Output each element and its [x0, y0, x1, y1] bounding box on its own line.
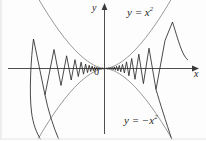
oscillating-curve-left-tail	[30, 39, 41, 140]
lower-parabola-label: y = −x2	[124, 113, 158, 126]
left-edge-shading	[0, 0, 3, 140]
bottom-edge-shading	[0, 137, 206, 140]
origin-label: 0	[94, 66, 99, 77]
squeeze-theorem-figure: y = x2 y = −x2 y x 0	[0, 0, 206, 140]
oscillating-curve-left-return	[45, 95, 59, 140]
graph-canvas	[0, 0, 206, 140]
oscillating-curve-right	[106, 22, 173, 90]
x-axis-label: x	[194, 68, 198, 79]
lower-parabola-curve	[38, 69, 172, 140]
oscillating-curve-right-tail	[173, 22, 189, 60]
y-axis-arrow-icon	[102, 3, 108, 10]
upper-parabola-label: y = x2	[127, 5, 153, 18]
oscillating-curve-right-lower	[156, 90, 172, 141]
y-axis-label: y	[92, 2, 96, 13]
